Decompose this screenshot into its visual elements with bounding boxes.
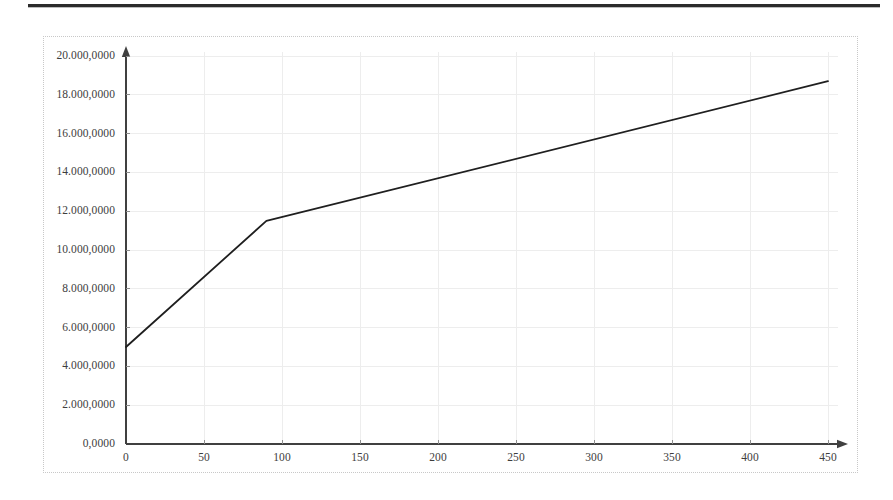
chart-plot-area: 0,00002.000,00004.000,00006.000,00008.00… xyxy=(44,37,857,472)
x-axis-tick-label: 100 xyxy=(257,452,307,464)
header-divider-rule xyxy=(28,4,880,7)
x-axis-tick-labels: 050100150200250300350400450 xyxy=(44,37,857,472)
x-axis-tick-label: 400 xyxy=(725,452,775,464)
x-axis-tick-label: 350 xyxy=(647,452,697,464)
x-axis-tick-label: 150 xyxy=(335,452,385,464)
x-axis-tick-label: 50 xyxy=(179,452,229,464)
x-axis-tick-label: 0 xyxy=(101,452,151,464)
x-axis-tick-label: 250 xyxy=(491,452,541,464)
chart-frame: 0,00002.000,00004.000,00006.000,00008.00… xyxy=(43,36,858,473)
x-axis-tick-label: 450 xyxy=(803,452,853,464)
x-axis-tick-label: 200 xyxy=(413,452,463,464)
x-axis-tick-label: 300 xyxy=(569,452,619,464)
